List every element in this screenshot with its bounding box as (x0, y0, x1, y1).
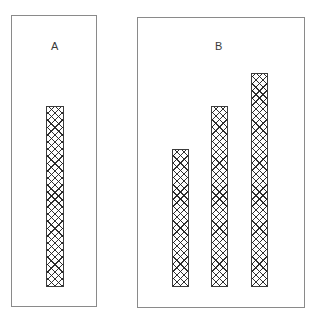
panel-label-a: A (51, 41, 59, 52)
bar-b-2 (211, 106, 228, 287)
figure-root: AB (0, 0, 317, 317)
panel-label-b: B (215, 41, 223, 52)
bar-b-1 (172, 149, 189, 287)
bar-a-1 (46, 106, 64, 287)
bar-b-3 (251, 73, 268, 287)
